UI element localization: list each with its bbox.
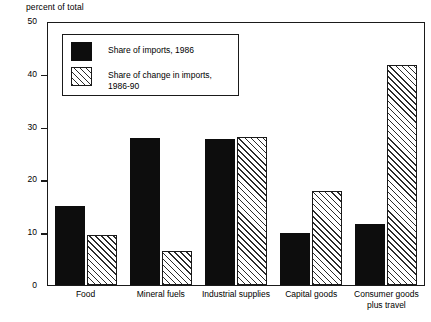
x-axis-label: Consumer goods plus travel <box>349 289 424 311</box>
y-tick-label: 40 <box>28 69 37 79</box>
y-tick-mark <box>41 180 47 181</box>
x-axis-label: Food <box>48 289 123 300</box>
bar-imports-share <box>280 233 310 285</box>
x-axis-label: Capital goods <box>274 289 349 300</box>
bar-chart: percent of total 01020304050 FoodMineral… <box>0 0 431 322</box>
bar-change-share <box>312 191 342 285</box>
legend-item-1: Share of change in imports, 1986-90 <box>71 67 212 92</box>
y-tick-mark <box>41 75 47 76</box>
bar-change-share <box>387 65 417 285</box>
x-axis-labels: FoodMineral fuelsIndustrial suppliesCapi… <box>48 289 424 322</box>
bar-change-share <box>87 235 117 285</box>
bar-change-share <box>162 251 192 285</box>
legend: Share of imports, 1986 Share of change i… <box>62 34 239 96</box>
bar-group <box>274 23 349 285</box>
y-tick-mark <box>41 128 47 129</box>
bar-change-share <box>237 137 267 285</box>
legend-swatch-hatch-icon <box>71 67 92 86</box>
y-tick-label: 0 <box>32 280 37 290</box>
y-tick-label: 10 <box>28 227 37 237</box>
y-axis: 01020304050 <box>0 22 47 286</box>
legend-label-1: Share of change in imports, 1986-90 <box>108 67 212 92</box>
bar-group <box>349 23 424 285</box>
y-tick-label: 30 <box>28 122 37 132</box>
x-axis-label: Mineral fuels <box>123 289 198 300</box>
legend-item-0: Share of imports, 1986 <box>71 42 194 61</box>
legend-swatch-solid-icon <box>71 42 92 61</box>
bar-imports-share <box>130 138 160 285</box>
bar-imports-share <box>355 224 385 285</box>
y-tick-label: 50 <box>28 16 37 26</box>
y-tick-label: 20 <box>28 174 37 184</box>
legend-label-0: Share of imports, 1986 <box>108 42 194 56</box>
y-axis-caption: percent of total <box>26 2 84 12</box>
x-axis-label: Industrial supplies <box>198 289 273 300</box>
y-tick-mark <box>41 233 47 234</box>
bar-imports-share <box>205 139 235 285</box>
bar-imports-share <box>55 206 85 285</box>
